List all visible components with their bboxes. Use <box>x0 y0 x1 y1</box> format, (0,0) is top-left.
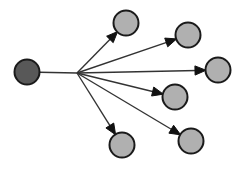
target-node-circle[interactable] <box>206 58 231 83</box>
edge-line <box>39 72 77 73</box>
target-node-circle[interactable] <box>179 129 204 154</box>
target-node-2[interactable] <box>176 23 201 48</box>
source-node[interactable] <box>15 60 40 85</box>
star-graph <box>0 0 244 171</box>
target-node-6[interactable] <box>110 133 135 158</box>
target-node-circle[interactable] <box>114 11 139 36</box>
target-node-circle[interactable] <box>110 133 135 158</box>
target-node-3[interactable] <box>206 58 231 83</box>
source-node-circle[interactable] <box>15 60 40 85</box>
edge-source-to-hub <box>39 72 77 73</box>
target-node-circle[interactable] <box>176 23 201 48</box>
target-node-circle[interactable] <box>163 85 188 110</box>
target-node-4[interactable] <box>163 85 188 110</box>
target-node-5[interactable] <box>179 129 204 154</box>
diagram-canvas <box>0 0 244 171</box>
target-node-1[interactable] <box>114 11 139 36</box>
